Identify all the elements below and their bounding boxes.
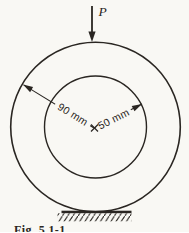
inner-radius-dimension: 50 mm	[93, 104, 142, 133]
force-arrowhead-icon	[88, 32, 95, 42]
figure-caption: Fig. 5.1-1	[14, 223, 66, 233]
ground-hatching	[58, 213, 132, 221]
scanned-figure-page: P 90 mm 50 mm Fig. 5.1	[0, 0, 189, 232]
inner-radius-label: 50 mm	[96, 106, 131, 132]
inner-radius-arrowhead-icon	[132, 104, 142, 111]
force-label: P	[98, 4, 107, 19]
ground-line	[62, 211, 132, 214]
outer-radius-label: 90 mm	[56, 100, 91, 128]
outer-radius-arrowhead-icon	[23, 85, 33, 93]
force-arrow	[88, 6, 95, 42]
ring-figure: P 90 mm 50 mm Fig. 5.1	[0, 0, 189, 232]
